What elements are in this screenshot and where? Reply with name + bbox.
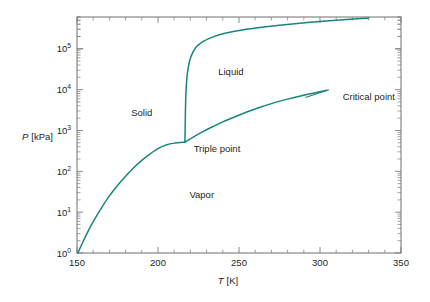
phase-diagram-figure: 150200250300350 100101102103104105 Solid… [0,0,430,302]
svg-text:T[K]: T[K] [218,275,238,286]
critical-point-label: Critical point [343,91,396,102]
x-axis-unit: [K] [227,275,239,286]
x-axis-symbol: T [218,275,225,286]
x-tick-label-350: 350 [393,257,409,268]
curve-sublimation-curve-solid-vapor [78,142,185,253]
x-tick-label-200: 200 [150,257,166,268]
y-axis-title: P[kPa] [22,131,53,142]
y-tick-label-1000: 103 [57,124,72,136]
solid-region-label: Solid [131,107,152,118]
liquid-region-label: Liquid [218,66,243,77]
y-axis-unit: [kPa] [31,131,53,142]
y-tick-label-100: 102 [57,165,72,177]
x-axis-tick-labels: 150200250300350 [69,257,409,268]
curve-vaporization-curve-liquid-vapor [185,90,327,142]
phase-diagram-plot: 150200250300350 100101102103104105 Solid… [0,0,430,302]
x-tick-label-150: 150 [69,257,85,268]
y-axis-symbol: P [22,131,29,142]
x-axis-ticks [77,17,401,253]
y-axis-ticks [77,17,401,253]
y-tick-label-10: 101 [57,206,72,218]
y-axis-tick-labels: 100101102103104105 [57,42,72,258]
y-tick-label-10000: 104 [57,83,72,95]
triple-point-label: Triple point [194,143,241,154]
x-tick-label-300: 300 [312,257,328,268]
region-annotations: SolidLiquidVaporTriple pointCritical poi… [131,66,395,200]
x-axis-title: T[K] [218,275,238,286]
y-tick-label-100000: 105 [57,42,72,54]
x-tick-label-250: 250 [231,257,247,268]
axis-frame [77,17,401,253]
curve-fusion-curve-solid-liquid [185,18,369,142]
phase-boundary-curves [78,18,369,253]
svg-text:P[kPa]: P[kPa] [22,131,53,142]
vapor-region-label: Vapor [189,189,214,200]
